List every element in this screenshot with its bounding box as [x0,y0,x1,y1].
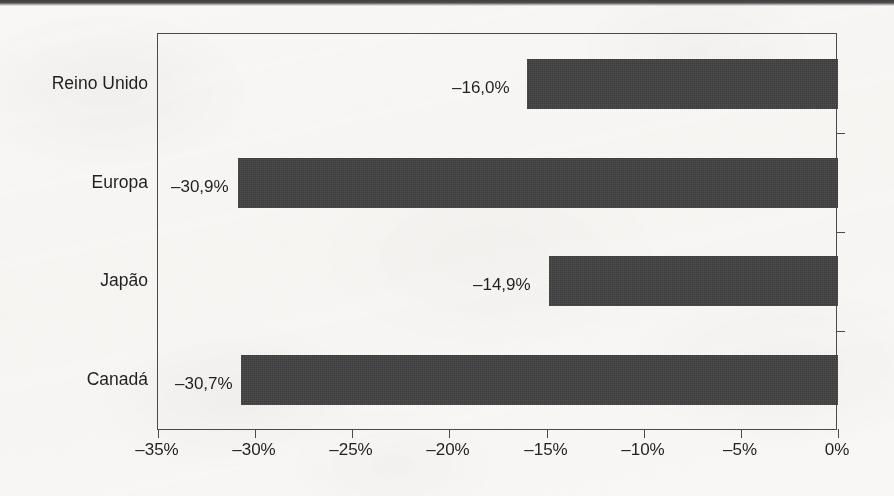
chart-figure: Reino Unido Europa Japão Canadá –16,0% –… [0,0,894,496]
x-axis-tick [644,429,645,438]
category-label: Japão [0,270,148,291]
y-axis-tick [836,232,845,233]
bar-japao [549,256,838,306]
x-axis-tick [838,429,839,438]
page-top-edge [0,0,894,6]
y-axis-tick [836,133,845,134]
bar-reino-unido [527,59,838,109]
x-axis-tick [547,429,548,438]
x-axis-label: –15% [524,440,567,460]
value-label-japao: –14,9% [473,275,531,295]
bar-europa [238,158,839,208]
value-label-reino-unido: –16,0% [452,78,510,98]
y-axis-tick [836,331,845,332]
x-axis-tick [741,429,742,438]
bar-canada [241,355,838,405]
x-axis-label: 0% [825,440,850,460]
x-axis-tick [158,429,159,438]
x-axis-label: –30% [232,440,275,460]
x-axis-label: –35% [135,440,178,460]
x-axis-label: –25% [329,440,372,460]
value-label-canada: –30,7% [175,374,233,394]
x-axis-label: –10% [621,440,664,460]
value-label-europa: –30,9% [171,177,229,197]
category-label: Europa [0,172,148,193]
category-label: Reino Unido [0,73,148,94]
x-axis-label: –20% [426,440,469,460]
x-axis-tick [449,429,450,438]
x-axis-tick [352,429,353,438]
category-label: Canadá [0,369,148,390]
x-axis-label: –5% [723,440,757,460]
x-axis-tick [255,429,256,438]
